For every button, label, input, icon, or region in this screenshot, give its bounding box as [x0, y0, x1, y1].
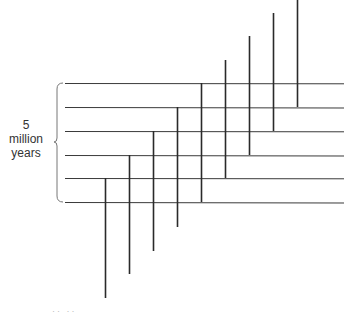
label-period: years [0, 146, 52, 160]
label-number: 5 [0, 118, 52, 132]
horizontal-time-lines [65, 84, 344, 204]
time-span-label: 5 million years [0, 118, 52, 160]
horizontal-line-6 [65, 203, 344, 204]
vertical-lineage-lines [106, 0, 298, 298]
horizontal-line-2 [65, 108, 344, 109]
diagram-canvas [0, 0, 353, 312]
curly-brace-icon [54, 83, 63, 202]
cropped-caption-fragment: ·· ·· [52, 306, 77, 312]
label-unit: million [0, 132, 52, 146]
horizontal-line-4 [65, 156, 344, 157]
